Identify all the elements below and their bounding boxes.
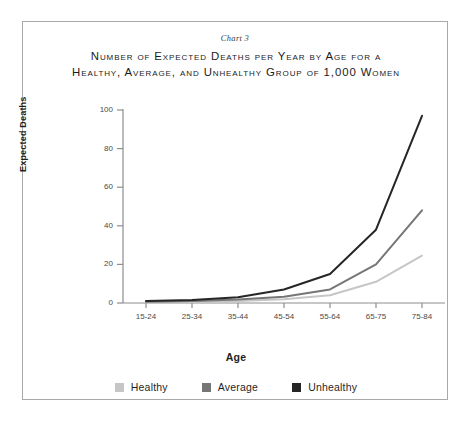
legend-label: Healthy bbox=[131, 381, 168, 393]
chart-figure-frame: Chart 3 Number of Expected Deaths per Ye… bbox=[22, 21, 448, 400]
series-line-unhealthy bbox=[146, 116, 422, 301]
y-axis-title: Expected Deaths bbox=[18, 96, 28, 172]
legend-label: Average bbox=[218, 381, 258, 393]
y-tick-label: 100 bbox=[87, 105, 113, 114]
legend-entry-unhealthy[interactable]: Unhealthy bbox=[292, 381, 357, 393]
x-tick-label: 75-84 bbox=[412, 312, 432, 321]
x-tick-label: 25-34 bbox=[182, 312, 202, 321]
x-tick-label: 15-24 bbox=[136, 312, 156, 321]
legend-swatch-healthy-icon bbox=[115, 383, 124, 392]
chart-title-line-2: Healthy, Average, and Unhealthy Group of… bbox=[35, 65, 437, 81]
line-chart-svg bbox=[79, 105, 453, 320]
x-tick-label: 45-54 bbox=[274, 312, 294, 321]
legend-entry-healthy[interactable]: Healthy bbox=[115, 381, 168, 393]
x-tick-label: 55-64 bbox=[320, 312, 340, 321]
x-axis-title: Age bbox=[23, 351, 449, 363]
chart-legend: HealthyAverageUnhealthy bbox=[23, 381, 449, 393]
y-tick-label: 40 bbox=[87, 221, 113, 230]
series-line-healthy bbox=[146, 256, 422, 303]
legend-entry-average[interactable]: Average bbox=[202, 381, 258, 393]
chart-title: Number of Expected Deaths per Year by Ag… bbox=[35, 49, 437, 80]
y-tick-label: 60 bbox=[87, 182, 113, 191]
plot-area: 02040608010015-2425-3435-4445-5455-6465-… bbox=[79, 105, 453, 320]
chart-title-line-1: Number of Expected Deaths per Year by Ag… bbox=[35, 49, 437, 65]
legend-swatch-average-icon bbox=[202, 383, 211, 392]
chart-caption: Chart 3 bbox=[23, 33, 447, 43]
series-line-average bbox=[146, 210, 422, 301]
legend-swatch-unhealthy-icon bbox=[292, 383, 301, 392]
legend-label: Unhealthy bbox=[308, 381, 357, 393]
x-tick-label: 65-75 bbox=[366, 312, 386, 321]
y-tick-label: 80 bbox=[87, 144, 113, 153]
y-tick-label: 20 bbox=[87, 259, 113, 268]
x-tick-label: 35-44 bbox=[228, 312, 248, 321]
y-tick-label: 0 bbox=[87, 298, 113, 307]
